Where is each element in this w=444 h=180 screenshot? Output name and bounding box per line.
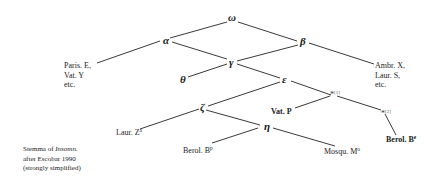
edge-gamma-epsilon [237,64,280,78]
node-zeta: ζ [200,102,205,113]
edge-beta-gamma [237,45,298,61]
caption-work-title: Insomn. [55,145,77,153]
edge-omega-alpha [170,22,227,38]
edge-star1-star2 [337,96,381,110]
caption-prefix: Stemma of [23,145,55,153]
star-2-note: [2] [385,109,391,114]
ms-mosqu-label: Mosqu. M [324,147,357,156]
node-omega: ω [228,12,236,23]
node-epsilon: ε [282,74,287,85]
ms-berol-bp-sup: p [210,145,213,151]
ms-berol-be-sup: e [414,134,416,140]
caption-line3: (strongly simplified) [23,164,81,174]
node-eta: η [264,121,270,132]
caption-line2: after Escobar 1990 [23,155,81,165]
ms-laur-z: Laur. Za [116,128,142,138]
edge-alpha-paris [97,41,160,63]
edge-eta-berol-bp [212,128,258,143]
ms-laur-z-label: Laur. Z [116,128,140,137]
edge-gamma-theta [188,64,227,77]
edge-epsilon-star1 [291,81,331,95]
ms-mosqu: Mosqu. Mo [324,147,360,157]
ms-ambr-line2: Laur. S, [375,71,405,81]
edge-zeta-eta [206,110,260,125]
ms-berol-be: Berol. Be [386,135,416,145]
edge-zeta-laur [140,109,199,129]
node-alpha: α [163,35,169,46]
ms-berol-bp: Berol. Bp [183,146,213,156]
caption-line1: Stemma of Insomn. [23,145,81,155]
node-theta: θ [180,74,186,85]
ms-group-ambr: Ambr. X, Laur. S, etc. [375,61,405,90]
ms-paris-line3: etc. [64,80,91,90]
edge-star1-vatp [295,96,330,108]
star-1-note: [1] [334,90,340,95]
edge-alpha-gamma [172,42,227,59]
edge-omega-beta [238,22,297,41]
ms-paris-line1: Paris. E, [64,61,91,71]
ms-ambr-line1: Ambr. X, [375,61,405,71]
ms-ambr-line3: etc. [375,80,405,90]
node-star-2: *[2] [381,110,391,118]
edge-eta-mosqu [273,128,335,146]
stemma-caption: Stemma of Insomn. after Escobar 1990 (st… [23,145,81,174]
ms-laur-z-sup: a [140,127,142,133]
node-star-1: *[1] [330,91,340,99]
node-beta: β [300,36,306,47]
edge-epsilon-zeta [208,82,280,106]
ms-paris-line2: Vat. Y [64,71,91,81]
edge-beta-ambr [309,43,374,64]
ms-berol-be-label: Berol. B [386,135,414,144]
ms-berol-bp-label: Berol. B [183,146,210,155]
ms-group-paris: Paris. E, Vat. Y etc. [64,61,91,90]
node-gamma: γ [229,57,234,68]
ms-mosqu-sup: o [357,146,360,152]
ms-vat-p: Vat. P [271,107,292,117]
